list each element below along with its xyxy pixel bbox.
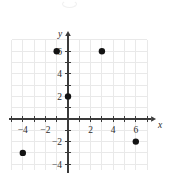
axis-layer	[9, 31, 157, 173]
y-axis-tick-label: 4	[57, 69, 62, 79]
x-axis-tick-label: 2	[88, 125, 93, 135]
x-axis-tick-label: −2	[40, 125, 50, 135]
data-point	[133, 138, 139, 144]
y-axis-name-label: y	[57, 29, 63, 39]
x-axis-tick-label: 4	[111, 125, 116, 135]
y-axis-tick-label: −4	[52, 160, 62, 170]
y-axis-arrowhead	[65, 31, 71, 36]
y-axis-tick-label: 2	[57, 92, 62, 102]
x-axis-tick-label: −4	[18, 125, 28, 135]
coordinate-plane-figure: −4−2246642−2−4 xy	[0, 0, 190, 194]
data-point	[99, 48, 105, 54]
x-axis-name-label: x	[157, 120, 163, 130]
x-axis-arrowhead	[151, 116, 156, 122]
data-point	[65, 93, 71, 99]
x-axis-tick-label: 6	[133, 125, 138, 135]
y-axis-tick-label: −2	[52, 137, 62, 147]
grid-layer	[12, 40, 148, 170]
data-point	[54, 48, 60, 54]
scatter-plot-canvas: −4−2246642−2−4 xy	[0, 0, 190, 194]
data-point	[20, 150, 26, 156]
